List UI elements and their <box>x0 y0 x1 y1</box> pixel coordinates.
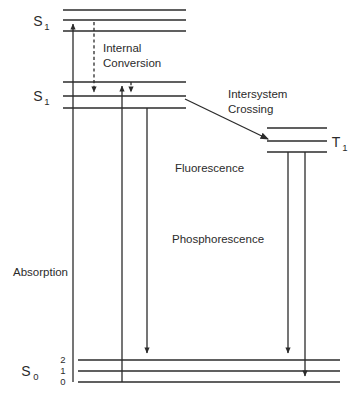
ground-state-label: S <box>21 363 30 379</box>
triplet-label: T <box>332 134 341 150</box>
triplet-subscript: 1 <box>342 142 347 153</box>
jablonski-diagram: S 1 S 1 T 1 2 1 0 S 0 <box>0 0 359 398</box>
ground-vib-number-2: 2 <box>60 354 65 365</box>
jablonski-diagram-canvas: S 1 S 1 T 1 2 1 0 S 0 <box>0 0 359 398</box>
lower-singlet-state-group: S 1 <box>33 82 186 108</box>
absorption-label: Absorption <box>13 266 68 278</box>
intersystem-crossing-label-line2: Crossing <box>228 103 273 115</box>
lower-singlet-subscript: 1 <box>44 96 49 107</box>
ground-state-group: 2 1 0 S 0 <box>21 354 340 387</box>
ground-vib-number-0: 0 <box>60 376 65 387</box>
fluorescence-label: Fluorescence <box>175 162 244 174</box>
ground-state-subscript: 0 <box>33 371 38 382</box>
lower-singlet-label: S <box>33 88 42 104</box>
intersystem-crossing-group: Intersystem Crossing <box>185 88 287 139</box>
upper-singlet-subscript: 1 <box>44 21 49 32</box>
upper-singlet-label: S <box>33 13 42 29</box>
triplet-state-group: T 1 <box>267 128 348 153</box>
absorption-transition-group: Absorption <box>13 24 73 382</box>
intersystem-crossing-label-line1: Intersystem <box>228 88 287 100</box>
internal-conversion-label-line2: Conversion <box>103 57 161 69</box>
upper-singlet-state-group: S 1 <box>33 10 186 32</box>
fluorescence-transition-group: Fluorescence <box>147 108 244 353</box>
ground-vib-number-1: 1 <box>60 365 65 376</box>
phosphorescence-label: Phosphorescence <box>172 233 264 245</box>
internal-conversion-label-line1: Internal <box>103 42 141 54</box>
phosphorescence-transition-group: Phosphorescence <box>172 152 305 376</box>
